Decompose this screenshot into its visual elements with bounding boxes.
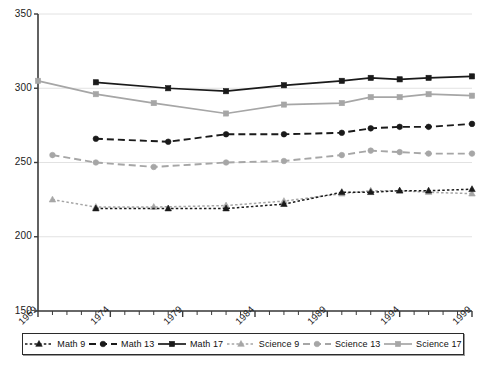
data-point-marker [166, 86, 171, 91]
data-point-marker [469, 151, 475, 157]
data-point-marker [151, 101, 156, 106]
series-math-17 [93, 74, 474, 94]
data-point-marker [425, 187, 431, 193]
legend-label: Math 13 [121, 339, 154, 349]
data-point-marker [339, 78, 344, 83]
legend-item-science-13[interactable]: Science 13 [302, 338, 381, 350]
legend-item-math-9[interactable]: Math 9 [24, 338, 85, 350]
legend-swatch-triangle-icon [226, 338, 256, 350]
legend-swatch-triangle-icon [24, 338, 54, 350]
data-point-marker [223, 111, 228, 116]
data-point-marker [93, 80, 98, 85]
data-point-marker [397, 149, 403, 155]
legend-swatch-square-icon [157, 338, 187, 350]
data-point-marker [100, 341, 106, 347]
series-line [38, 81, 472, 114]
line-chart: 350300250200150 196919741979198419891994… [0, 0, 486, 369]
legend-label: Math 17 [190, 339, 223, 349]
data-point-marker [339, 130, 345, 136]
legend-label: Science 17 [416, 339, 462, 349]
data-point-marker [339, 152, 345, 158]
series-math-13 [93, 121, 475, 144]
data-point-marker [281, 131, 287, 137]
y-axis-tick-label: 200 [2, 230, 32, 241]
data-point-marker [93, 136, 99, 142]
series-line [52, 151, 472, 167]
legend-item-science-17[interactable]: Science 17 [383, 338, 462, 350]
chart-legend: Math 9Math 13Math 17Science 9Science 13S… [22, 333, 464, 355]
data-point-marker [93, 160, 99, 166]
data-point-marker [368, 75, 373, 80]
legend-item-math-17[interactable]: Math 17 [157, 338, 223, 350]
data-point-marker [397, 77, 402, 82]
data-point-marker [426, 124, 432, 130]
data-point-marker [469, 186, 475, 192]
data-point-marker [223, 160, 229, 166]
data-point-marker [397, 124, 403, 130]
data-point-marker [35, 78, 40, 83]
y-axis-tick-label: 350 [2, 8, 32, 19]
data-point-marker [151, 164, 157, 170]
data-point-marker [165, 139, 171, 145]
legend-swatch-circle-icon [88, 338, 118, 350]
legend-item-math-13[interactable]: Math 13 [88, 338, 154, 350]
data-point-marker [426, 151, 432, 157]
y-axis-tick-label: 250 [2, 156, 32, 167]
series-line [52, 191, 472, 207]
data-point-marker [368, 126, 374, 132]
data-point-marker [314, 341, 320, 347]
data-point-marker [223, 131, 229, 137]
data-point-marker [169, 341, 174, 346]
data-point-marker [50, 152, 56, 158]
series-science-17 [35, 78, 474, 116]
data-point-marker [93, 92, 98, 97]
data-point-marker [281, 158, 287, 164]
data-point-marker [426, 92, 431, 97]
data-point-marker [368, 148, 374, 154]
data-point-marker [469, 93, 474, 98]
series-science-13 [50, 148, 475, 170]
axis-lines [34, 14, 472, 317]
legend-swatch-square-icon [383, 338, 413, 350]
data-point-marker [281, 102, 286, 107]
data-point-marker [165, 205, 171, 211]
data-point-marker [397, 95, 402, 100]
data-series-group [35, 74, 475, 211]
legend-label: Math 9 [57, 339, 85, 349]
data-point-marker [223, 89, 228, 94]
data-point-marker [469, 74, 474, 79]
data-point-marker [339, 101, 344, 106]
data-point-marker [281, 83, 286, 88]
legend-label: Science 9 [259, 339, 299, 349]
data-point-marker [368, 95, 373, 100]
legend-label: Science 13 [335, 339, 381, 349]
legend-item-science-9[interactable]: Science 9 [226, 338, 299, 350]
data-point-marker [395, 341, 400, 346]
data-point-marker [469, 121, 475, 127]
data-point-marker [49, 196, 55, 202]
legend-swatch-circle-icon [302, 338, 332, 350]
y-axis-tick-label: 300 [2, 82, 32, 93]
data-point-marker [426, 75, 431, 80]
